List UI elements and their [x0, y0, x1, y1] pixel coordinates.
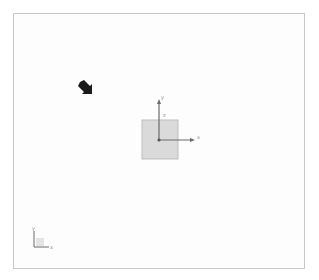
axis-label-x: x: [197, 134, 200, 140]
scene-overlay: y z x y x: [0, 0, 319, 280]
triad-label-y: y: [32, 225, 35, 232]
axis-label-z: z: [163, 112, 166, 118]
axis-label-y: y: [161, 94, 164, 101]
view-orientation-triad: y x: [32, 225, 53, 250]
triad-label-x: x: [50, 244, 53, 250]
arrow-cursor-icon: [78, 80, 92, 94]
